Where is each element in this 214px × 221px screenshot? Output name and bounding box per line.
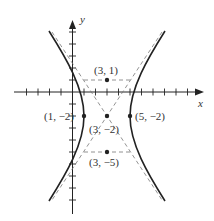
y-axis-label: y — [80, 14, 85, 25]
point-vertex-bottom — [105, 150, 109, 154]
point-right — [128, 114, 132, 118]
label-point-3-neg5: (3, −5) — [89, 157, 119, 168]
x-axis-label: x — [198, 98, 203, 109]
label-point-5-neg2: (5, −2) — [135, 111, 165, 122]
point-left — [82, 114, 86, 118]
point-vertex-top — [105, 78, 109, 82]
label-point-3-neg2: (3, −2) — [89, 124, 119, 135]
hyperbola-figure: y x (3, 1) (1, −2) (3, −2) (5, −2) (3, −… — [0, 0, 214, 221]
graph-canvas — [0, 0, 214, 221]
label-point-3-1: (3, 1) — [94, 65, 118, 76]
label-point-1-neg2: (1, −2) — [44, 111, 74, 122]
x-axis — [14, 89, 204, 96]
point-center — [105, 114, 109, 118]
